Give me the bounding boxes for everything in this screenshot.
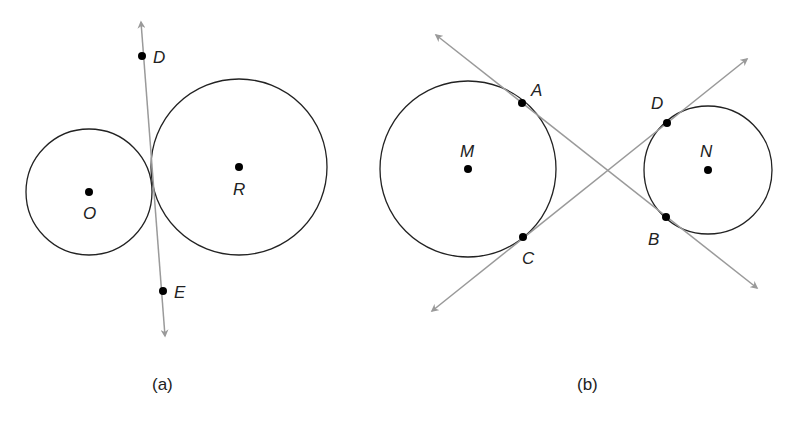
center-point-m [464, 165, 472, 173]
label-b: B [648, 230, 659, 249]
label-m: M [460, 142, 475, 161]
center-point-o [85, 188, 93, 196]
label-r: R [233, 180, 245, 199]
label-a: A [530, 81, 542, 100]
label-e: E [174, 283, 186, 302]
geometry-diagram: O R D E (a) M N A C D B (b) [0, 0, 789, 424]
point-d [138, 52, 146, 60]
point-a [518, 99, 526, 107]
tangent-line-cd [432, 59, 747, 311]
point-c [519, 233, 527, 241]
label-n: N [700, 142, 713, 161]
label-d-b: D [651, 94, 663, 113]
point-e [159, 287, 167, 295]
label-d: D [153, 48, 165, 67]
caption-a: (a) [152, 375, 173, 394]
label-c: C [522, 249, 535, 268]
tangent-line-ab [436, 35, 757, 288]
label-o: O [83, 204, 96, 223]
figure-a: O R D E (a) [26, 22, 327, 394]
point-d [663, 119, 671, 127]
figure-b: M N A C D B (b) [380, 35, 772, 394]
center-point-n [704, 166, 712, 174]
point-b [662, 213, 670, 221]
center-point-r [235, 163, 243, 171]
caption-b: (b) [577, 375, 598, 394]
